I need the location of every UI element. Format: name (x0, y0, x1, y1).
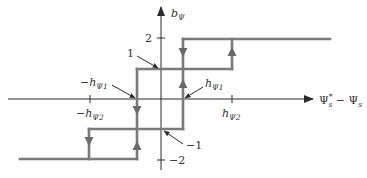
x-axis-label: Ψ*s − Ψs (319, 92, 362, 109)
labels: bΨ Ψ*s − Ψs 2 −2 −hΨ2 hΨ2 1 −1 −hΨ1 hΨ1 (76, 7, 362, 167)
axes (8, 7, 313, 170)
arrow-up-icon (179, 79, 188, 88)
annotation-level-minus-1: −1 (186, 139, 202, 152)
pointer-minus-h1 (112, 85, 135, 98)
y-tick-label-minus-2: −2 (169, 154, 185, 167)
annotation-h1: hΨ1 (205, 77, 223, 92)
pointer-minus-1 (164, 131, 183, 144)
y-tick-label-2: 2 (145, 32, 152, 45)
arrow-down-icon (179, 48, 188, 57)
arrow-down-icon (133, 106, 142, 115)
arrow-up-icon (228, 47, 237, 56)
pointer-1 (137, 56, 158, 68)
x-tick-label-h2: hΨ2 (222, 107, 241, 122)
hysteresis-diagram: bΨ Ψ*s − Ψs 2 −2 −hΨ2 hΨ2 1 −1 −hΨ1 hΨ1 (0, 0, 367, 178)
annotation-minus-h1: −hΨ1 (80, 76, 108, 91)
y-axis-label: bΨ (171, 7, 185, 22)
pointer-h1 (185, 87, 203, 98)
arrow-up-icon (133, 141, 142, 150)
annotation-level-1: 1 (127, 47, 134, 60)
x-tick-label-minus-h2: −hΨ2 (76, 107, 104, 122)
arrow-down-icon (85, 137, 94, 146)
